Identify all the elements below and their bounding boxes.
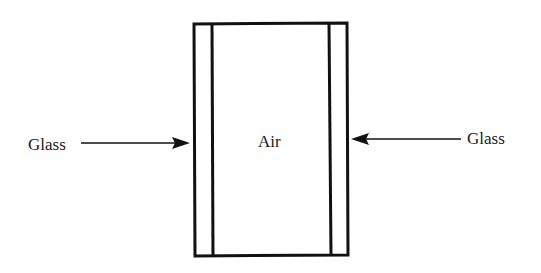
right-arrow xyxy=(351,133,461,145)
left-arrow xyxy=(81,137,190,149)
left-glass-inner-edge xyxy=(212,24,213,256)
left-glass-label: Glass xyxy=(28,136,66,153)
air-gap-label: Air xyxy=(258,133,281,150)
right-glass-label: Glass xyxy=(467,130,505,147)
right-glass-inner-edge xyxy=(329,23,331,255)
